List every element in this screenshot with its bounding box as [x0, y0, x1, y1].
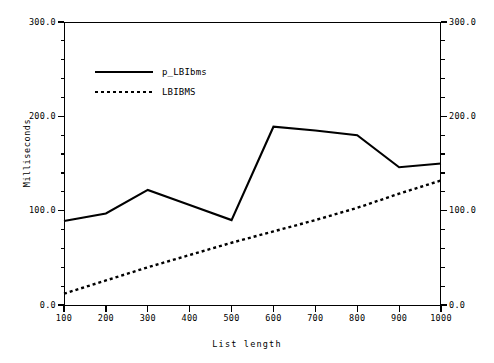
x-tick-label: 600 — [253, 313, 293, 323]
y-minor-tick-left — [61, 59, 65, 60]
y-tick-left — [58, 21, 64, 22]
x-tick-label: 1000 — [421, 313, 461, 323]
x-tick — [273, 306, 274, 312]
x-tick — [105, 306, 106, 312]
x-tick — [399, 306, 400, 312]
y-minor-tick-left — [61, 248, 65, 249]
x-tick-label: 200 — [86, 313, 126, 323]
y-minor-tick-left — [61, 40, 65, 41]
series-line-LBIBMS — [64, 180, 441, 293]
y-axis-left-spine — [64, 22, 65, 306]
y-tick-label-left: 100.0 — [29, 205, 56, 215]
x-tick — [315, 306, 316, 312]
x-tick-label: 300 — [128, 313, 168, 323]
y-minor-tick-right — [441, 153, 445, 154]
y-minor-tick-left — [61, 286, 65, 287]
x-tick-label: 700 — [295, 313, 335, 323]
y-minor-tick-left — [61, 229, 65, 230]
line-chart: 0.00.0100.0100.0200.0200.0300.0300.01002… — [0, 0, 494, 363]
legend: p_LBIbms LBIBMS — [95, 62, 207, 102]
x-tick — [147, 306, 148, 312]
x-tick — [357, 306, 358, 312]
y-minor-tick-right — [441, 59, 445, 60]
y-minor-tick-left — [61, 191, 65, 192]
y-tick-right — [441, 116, 447, 117]
y-tick-left — [58, 116, 64, 117]
x-tick-label: 500 — [212, 313, 252, 323]
x-axis-title: List length — [0, 339, 494, 349]
y-tick-label-left: 300.0 — [29, 17, 56, 27]
y-minor-tick-left — [61, 135, 65, 136]
x-tick-label: 100 — [44, 313, 84, 323]
y-minor-tick-left — [61, 172, 65, 173]
x-tick-label: 900 — [379, 313, 419, 323]
x-tick-label: 400 — [170, 313, 210, 323]
legend-label-series-2: LBIBMS — [162, 87, 196, 97]
y-minor-tick-right — [441, 191, 445, 192]
y-minor-tick-right — [441, 97, 445, 98]
y-minor-tick-right — [441, 135, 445, 136]
y-minor-tick-right — [441, 229, 445, 230]
y-minor-tick-left — [61, 153, 65, 154]
x-axis-spine — [64, 305, 442, 306]
legend-label-series-1: p_LBIbms — [162, 67, 207, 77]
y-tick-label-left: 200.0 — [29, 111, 56, 121]
y-tick-right — [441, 304, 447, 305]
x-tick — [63, 306, 64, 312]
y-minor-tick-right — [441, 267, 445, 268]
y-minor-tick-right — [441, 78, 445, 79]
y-minor-tick-right — [441, 40, 445, 41]
series-line-p_LBIbms — [64, 127, 441, 221]
legend-line-solid-icon — [95, 67, 153, 78]
x-tick — [440, 306, 441, 312]
y-tick-right — [441, 210, 447, 211]
y-minor-tick-left — [61, 97, 65, 98]
y-tick-label-left: 0.0 — [40, 300, 56, 310]
y-tick-label-right: 300.0 — [449, 17, 476, 27]
y-tick-label-right: 200.0 — [449, 111, 476, 121]
legend-item-series-2: LBIBMS — [95, 82, 207, 102]
y-minor-tick-right — [441, 248, 445, 249]
x-tick — [189, 306, 190, 312]
y-tick-label-right: 0.0 — [449, 300, 465, 310]
y-minor-tick-right — [441, 172, 445, 173]
y-tick-label-right: 100.0 — [449, 205, 476, 215]
y-minor-tick-right — [441, 286, 445, 287]
y-minor-tick-left — [61, 78, 65, 79]
legend-line-dotted-icon — [95, 87, 153, 98]
y-tick-right — [441, 21, 447, 22]
legend-item-series-1: p_LBIbms — [95, 62, 207, 82]
y-axis-right-spine — [440, 22, 441, 306]
x-tick-label: 800 — [337, 313, 377, 323]
x-tick — [231, 306, 232, 312]
plot-top-spine — [64, 22, 442, 23]
y-tick-left — [58, 210, 64, 211]
y-minor-tick-left — [61, 267, 65, 268]
y-axis-title: Milliseconds — [22, 98, 32, 208]
series-layer — [0, 0, 494, 363]
